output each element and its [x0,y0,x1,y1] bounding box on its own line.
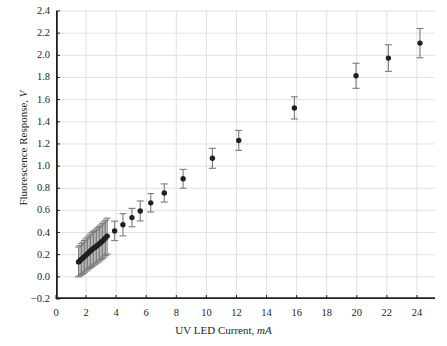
x-tick-label: 14 [261,308,272,319]
y-tick-label: 2.4 [14,6,50,17]
x-tick-label: 16 [291,308,302,319]
y-tick-label: 0.0 [14,272,50,283]
y-tick-label: −0.2 [14,294,50,305]
x-tick-label: 10 [201,308,212,319]
x-tick-label: 24 [412,308,423,319]
x-tick-label: 4 [114,308,119,319]
scatter-plot-figure: −0.20.00.20.40.60.81.01.21.41.61.82.02.2… [0,0,447,346]
plot-area [56,11,435,299]
y-axis-title: Fluorescence Response, V [17,33,29,263]
x-axis-title: UV LED Current, mA [0,324,447,336]
x-tick-label: 8 [174,308,179,319]
x-axis-title-text: UV LED Current, [175,324,257,336]
x-tick-label: 12 [231,308,242,319]
x-tick-label: 2 [83,308,88,319]
y-axis-title-unit: V [17,90,29,97]
x-tick-label: 6 [144,308,149,319]
x-tick-label: 22 [382,308,393,319]
x-axis-title-unit: mA [257,324,272,336]
x-tick-label: 0 [53,308,58,319]
x-tick-label: 20 [352,308,363,319]
x-tick-label: 18 [321,308,332,319]
y-axis-title-text: Fluorescence Response, [17,97,29,205]
axis-frame [56,11,435,299]
